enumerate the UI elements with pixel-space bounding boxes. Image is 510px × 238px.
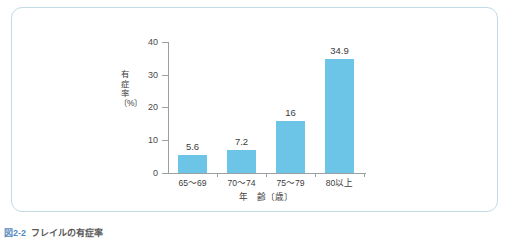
x-axis-title: 年 齢〔歳〕 xyxy=(168,192,364,202)
figure-frame: 40 30 20 10 0 5.6 7.2 16 34.9 65〜69 70〜7… xyxy=(11,7,498,212)
x-label-70-74: 70〜74 xyxy=(217,178,266,188)
y-axis-line xyxy=(168,42,169,174)
x-tick-boundary-2 xyxy=(266,173,267,177)
y-tick-label-40: 40 xyxy=(138,38,158,47)
bar-value-80-over: 34.9 xyxy=(315,46,364,56)
caption-number: 図2-2 xyxy=(4,228,26,238)
x-label-80-over: 80以上 xyxy=(315,178,364,188)
bar-value-65-69: 5.6 xyxy=(168,142,217,152)
x-tick-boundary-3 xyxy=(315,173,316,177)
bar-value-75-79: 16 xyxy=(266,108,315,118)
figure-caption: 図2-2 フレイルの有症率 xyxy=(4,228,404,238)
y-tick-40 xyxy=(162,42,168,43)
y-tick-20 xyxy=(162,107,168,108)
x-axis-line xyxy=(168,173,366,174)
bar-80-over[interactable] xyxy=(325,59,354,173)
x-tick-boundary-4 xyxy=(364,173,365,177)
y-tick-label-30: 30 xyxy=(138,71,158,80)
y-axis-title: 有症率〔%〕 xyxy=(119,70,131,108)
bar-70-74[interactable] xyxy=(227,150,256,173)
y-tick-10 xyxy=(162,140,168,141)
figure-root: 40 30 20 10 0 5.6 7.2 16 34.9 65〜69 70〜7… xyxy=(0,0,510,238)
y-tick-label-0: 0 xyxy=(138,169,158,178)
y-tick-label-10: 10 xyxy=(138,136,158,145)
x-label-65-69: 65〜69 xyxy=(168,178,217,188)
x-tick-boundary-1 xyxy=(217,173,218,177)
caption-text: フレイルの有症率 xyxy=(31,228,103,238)
bar-value-70-74: 7.2 xyxy=(217,137,266,147)
bar-75-79[interactable] xyxy=(276,121,305,173)
x-label-75-79: 75〜79 xyxy=(266,178,315,188)
bar-65-69[interactable] xyxy=(178,155,207,173)
y-tick-0 xyxy=(162,173,168,174)
y-tick-30 xyxy=(162,75,168,76)
